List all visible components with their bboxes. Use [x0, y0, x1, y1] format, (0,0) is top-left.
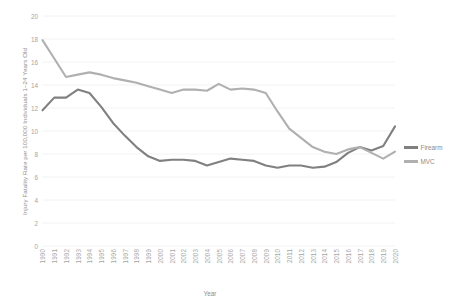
legend-swatch-mvc [404, 160, 418, 163]
x-tick-label: 2005 [216, 249, 223, 263]
x-tick-label: 2011 [286, 249, 293, 263]
x-axis-title: Year [40, 290, 380, 297]
x-tick-label: 1994 [86, 249, 93, 263]
x-tick-label: 1997 [122, 249, 129, 263]
x-tick-label: 2013 [310, 249, 317, 263]
x-tick-label: 2008 [251, 249, 258, 263]
legend-item-mvc[interactable]: MVC [404, 156, 459, 167]
chart-legend: Firearm MVC [404, 142, 459, 170]
x-tick-label: 2018 [368, 249, 375, 263]
legend-swatch-firearm [404, 146, 418, 149]
x-tick-label: 1990 [39, 249, 46, 263]
x-tick-label: 2006 [227, 249, 234, 263]
x-tick-label: 2004 [204, 249, 211, 263]
x-tick-label: 2014 [321, 249, 328, 263]
x-tick-label: 2015 [333, 249, 340, 263]
x-tick-label: 2017 [357, 249, 364, 263]
x-tick-label: 1999 [145, 249, 152, 263]
x-tick-label: 1992 [63, 249, 70, 263]
x-tick-label: 2012 [298, 249, 305, 263]
legend-label-mvc: MVC [421, 158, 435, 165]
x-tick-label: 2020 [392, 249, 399, 263]
x-tick-label: 2000 [157, 249, 164, 263]
line-chart: Injury Fatality Rate per 100,000 Individ… [0, 0, 459, 308]
x-tick-label: 2019 [380, 249, 387, 263]
legend-item-firearm[interactable]: Firearm [404, 142, 459, 153]
x-tick-label: 1993 [75, 249, 82, 263]
x-tick-label: 1995 [98, 249, 105, 263]
x-tick-label: 2002 [180, 249, 187, 263]
legend-label-firearm: Firearm [421, 144, 443, 151]
x-tick-label: 2001 [169, 249, 176, 263]
x-tick-label: 2003 [192, 249, 199, 263]
x-tick-label: 2007 [239, 249, 246, 263]
x-tick-label: 1998 [133, 249, 140, 263]
x-axis-ticks: 1990199119921993199419951996199719981999… [0, 0, 459, 308]
x-tick-label: 1991 [51, 249, 58, 263]
x-tick-label: 2010 [274, 249, 281, 263]
x-tick-label: 2016 [345, 249, 352, 263]
x-tick-label: 1996 [110, 249, 117, 263]
x-tick-label: 2009 [263, 249, 270, 263]
